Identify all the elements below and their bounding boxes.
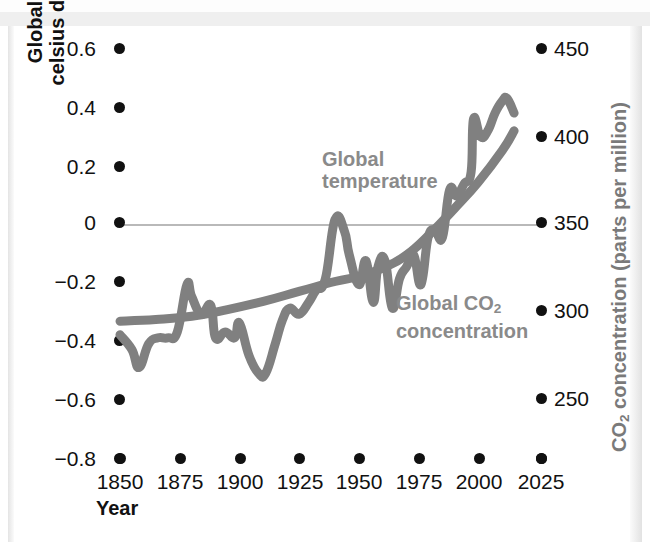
co2-label-text: Global CO bbox=[396, 292, 494, 314]
figure-canvas: Global temperature (degrees celsius devi… bbox=[0, 0, 650, 544]
co2-label-subscript: 2 bbox=[494, 301, 502, 316]
co2-series-label-line2: concentration bbox=[396, 320, 528, 342]
temperature-series-label: Global temperature bbox=[322, 148, 438, 192]
co2-series-label: Global CO2 concentration bbox=[396, 292, 528, 342]
temperature-series-label-line2: temperature bbox=[322, 170, 438, 192]
series-plot-area bbox=[0, 0, 650, 544]
co2-series-label-line1: Global CO2 bbox=[396, 292, 528, 320]
temperature-series-label-line1: Global bbox=[322, 148, 438, 170]
